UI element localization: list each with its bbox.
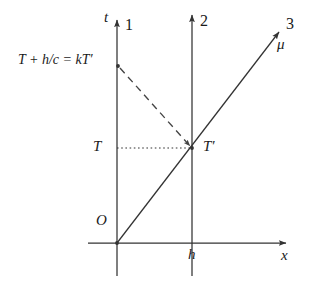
t-axis-label: t [104,10,108,25]
light-signal-dashed-line [120,68,190,146]
emission-event-dot [116,64,120,68]
worldline-3-label: 3 [286,16,294,32]
emission-event-label: T + h/c = kT′ [18,53,93,67]
x-axis-label: x [281,248,288,263]
intersection-event-dot [190,146,194,150]
worldline-2-label: 2 [200,13,208,29]
worldline-3-line [117,32,279,243]
diagram-canvas [0,0,309,289]
origin-dot [115,241,119,245]
x-tick-label: h [188,247,196,262]
origin-label: O [96,213,107,228]
mu-label: μ [277,37,285,52]
worldline-1-label: 1 [125,17,133,33]
intersection-point-label: T′ [203,139,215,154]
t-tick-label: T [93,139,101,154]
spacetime-diagram: t x 1 2 3 μ T + h/c = kT′ T T′ O h [0,0,309,289]
